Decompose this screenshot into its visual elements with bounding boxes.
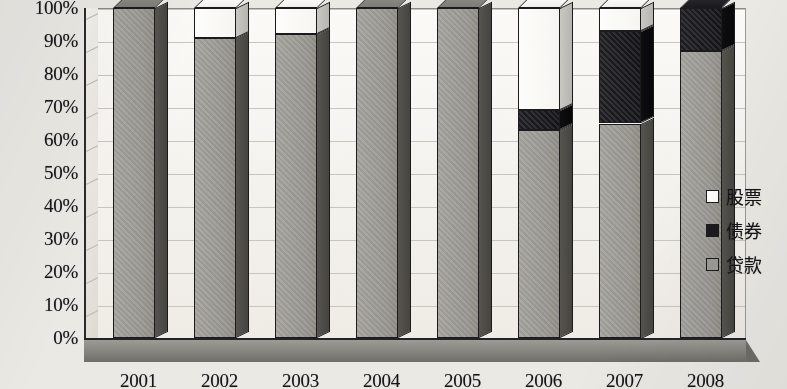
y-axis-tick-label: 60%	[44, 129, 78, 151]
stacked-bar[interactable]	[437, 8, 479, 338]
legend-swatch-black	[706, 224, 719, 237]
chart-back-wall-left	[84, 8, 98, 360]
bar-group[interactable]	[680, 9, 722, 338]
y-axis-tick-label: 30%	[44, 228, 78, 250]
y-axis-tick-label: 80%	[44, 63, 78, 85]
x-axis-tick-label: 2004	[342, 370, 422, 389]
bar-segment[interactable]	[518, 110, 560, 130]
x-axis-tick-label: 2005	[423, 370, 503, 389]
stacked-bar[interactable]	[356, 8, 398, 338]
bar-segment[interactable]	[275, 8, 317, 34]
bar-segment[interactable]	[194, 8, 236, 38]
x-axis-tick-label: 2006	[504, 370, 584, 389]
bar-segment-side-face	[641, 25, 654, 124]
bar-group[interactable]	[599, 9, 641, 338]
y-axis: 0%10%20%30%40%50%60%70%80%90%100%	[0, 0, 84, 389]
y-axis-tick-label: 100%	[35, 0, 78, 19]
bar-segment[interactable]	[518, 8, 560, 110]
stacked-bar[interactable]	[518, 8, 560, 338]
y-axis-tick-label: 0%	[53, 327, 78, 349]
bar-segment[interactable]	[194, 38, 236, 338]
bar-segment-side-face	[722, 2, 735, 51]
y-axis-tick-label: 70%	[44, 96, 78, 118]
legend-item[interactable]: 股票	[706, 183, 762, 209]
x-axis-tick-label: 2003	[261, 370, 341, 389]
x-axis-tick-label: 2002	[180, 370, 260, 389]
legend-item[interactable]: 贷款	[706, 251, 762, 277]
bar-segment-side-face	[398, 2, 411, 338]
bar-segment[interactable]	[599, 8, 641, 31]
x-axis-tick-label: 2007	[585, 370, 665, 389]
bar-group[interactable]	[518, 9, 560, 338]
bar-segment[interactable]	[599, 124, 641, 339]
legend-label: 贷款	[726, 251, 762, 277]
bar-group[interactable]	[113, 9, 155, 338]
bar-segment[interactable]	[113, 8, 155, 338]
stacked-bar[interactable]	[275, 8, 317, 338]
bar-group[interactable]	[275, 9, 317, 338]
bar-segment[interactable]	[599, 31, 641, 123]
bar-group[interactable]	[194, 9, 236, 338]
bar-segment-side-face	[236, 31, 249, 338]
stacked-bar[interactable]	[599, 8, 641, 338]
bar-segment-side-face	[317, 28, 330, 338]
legend-swatch-gray	[706, 258, 719, 271]
y-axis-tick-label: 20%	[44, 261, 78, 283]
bar-group[interactable]	[356, 9, 398, 338]
stacked-bar[interactable]	[194, 8, 236, 338]
y-axis-tick-label: 90%	[44, 30, 78, 52]
x-axis-tick-label: 2008	[666, 370, 746, 389]
y-axis-tick-label: 40%	[44, 195, 78, 217]
legend-item[interactable]: 债券	[706, 217, 762, 243]
stacked-bar[interactable]	[680, 8, 722, 338]
chart-floor	[84, 338, 746, 362]
legend-label: 股票	[726, 183, 762, 209]
x-axis-tick-label: 2001	[99, 370, 179, 389]
bar-segment-side-face	[560, 124, 573, 338]
legend-label: 债券	[726, 217, 762, 243]
plot-canvas	[98, 8, 746, 338]
chart-legend: 股票债券贷款	[706, 183, 762, 277]
bar-segment[interactable]	[437, 8, 479, 338]
bar-segment-side-face	[641, 117, 654, 338]
plot-area-3d	[84, 8, 760, 362]
bar-segment-side-face	[155, 2, 168, 338]
y-axis-tick-label: 10%	[44, 294, 78, 316]
bar-segment-side-face	[560, 2, 573, 111]
legend-swatch-white	[706, 190, 719, 203]
bar-group[interactable]	[437, 9, 479, 338]
bar-segment[interactable]	[275, 34, 317, 338]
bar-segment[interactable]	[518, 130, 560, 338]
bar-segment-side-face	[479, 2, 492, 338]
bar-segment-side-face	[236, 2, 249, 38]
bar-segment[interactable]	[356, 8, 398, 338]
stacked-column-chart: 0%10%20%30%40%50%60%70%80%90%100% 200120…	[0, 0, 787, 389]
bar-segment[interactable]	[680, 8, 722, 51]
stacked-bar[interactable]	[113, 8, 155, 338]
y-axis-tick-label: 50%	[44, 162, 78, 184]
